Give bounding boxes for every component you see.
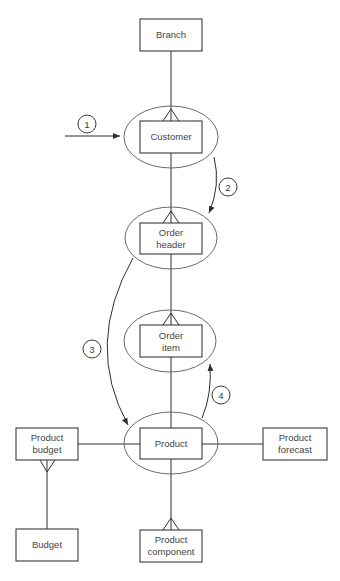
entity-label-line1: Product bbox=[155, 534, 188, 545]
step-marker-4: 4 bbox=[212, 386, 230, 404]
entity-product-budget[interactable]: Product budget bbox=[16, 428, 78, 460]
step-number: 2 bbox=[225, 183, 230, 193]
entity-label-line1: Product bbox=[279, 432, 312, 443]
entity-label-line2: component bbox=[147, 546, 194, 557]
entity-label: Customer bbox=[150, 131, 191, 142]
entity-label-line2: forecast bbox=[278, 444, 312, 455]
entity-product-component[interactable]: Product component bbox=[140, 530, 202, 562]
entity-customer[interactable]: Customer bbox=[140, 121, 202, 153]
entity-label-line1: Order bbox=[159, 330, 183, 341]
entity-order-header[interactable]: Order header bbox=[140, 223, 202, 254]
entity-label: Product bbox=[155, 438, 188, 449]
step-marker-1: 1 bbox=[78, 115, 96, 133]
er-diagram: Branch Customer Order header Order item … bbox=[0, 0, 340, 581]
step-number: 1 bbox=[84, 120, 89, 130]
access-arrow-3 bbox=[107, 258, 133, 425]
entity-label: Budget bbox=[32, 539, 62, 550]
step-marker-2: 2 bbox=[219, 178, 237, 196]
step-number: 4 bbox=[218, 391, 223, 401]
entity-product[interactable]: Product bbox=[140, 428, 202, 459]
entity-budget[interactable]: Budget bbox=[16, 529, 78, 561]
entity-label: Branch bbox=[156, 29, 186, 40]
entity-label-line2: budget bbox=[32, 444, 61, 455]
entity-label-line1: Product bbox=[31, 432, 64, 443]
access-arrow-4 bbox=[202, 364, 210, 418]
entity-branch[interactable]: Branch bbox=[140, 19, 202, 51]
step-number: 3 bbox=[89, 345, 94, 355]
step-marker-3: 3 bbox=[83, 340, 101, 358]
entity-label-line2: item bbox=[162, 342, 180, 353]
entity-label-line1: Order bbox=[159, 227, 183, 238]
access-arrow-2 bbox=[209, 157, 217, 213]
entity-label-line2: header bbox=[156, 239, 186, 250]
entity-product-forecast[interactable]: Product forecast bbox=[263, 428, 327, 460]
entity-order-item[interactable]: Order item bbox=[140, 325, 202, 357]
